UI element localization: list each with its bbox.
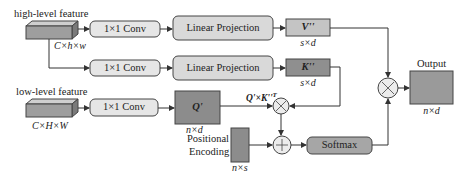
output-label: Output bbox=[410, 58, 453, 70]
softmax-label: Softmax bbox=[307, 139, 372, 151]
low-level-feature-cube bbox=[26, 99, 78, 117]
k-label: K'' bbox=[286, 61, 330, 73]
v-dims: s×d bbox=[286, 37, 330, 49]
conv-button-1: 1×1 Conv bbox=[90, 23, 160, 35]
conv-button-2: 1×1 Conv bbox=[90, 62, 160, 74]
high-level-dims: C×h×w bbox=[54, 40, 86, 52]
high-level-feature-label: high-level feature bbox=[14, 8, 88, 20]
positional-label: Positional bbox=[187, 133, 229, 145]
attention-diagram: high-level feature C×h×w low-level featu… bbox=[0, 0, 468, 176]
q-label: Q' bbox=[175, 101, 220, 113]
encoding-label: Encoding bbox=[189, 146, 229, 158]
pos-dims: n×s bbox=[232, 162, 248, 174]
low-level-dims: C×H×W bbox=[32, 120, 68, 132]
linear-projection-2: Linear Projection bbox=[173, 62, 273, 74]
k-dims: s×d bbox=[286, 77, 330, 89]
low-level-feature-label: low-level feature bbox=[16, 86, 87, 98]
linear-projection-1: Linear Projection bbox=[173, 22, 273, 34]
conv-button-3: 1×1 Conv bbox=[90, 101, 158, 113]
high-level-feature-cube bbox=[26, 21, 78, 39]
v-label: V'' bbox=[286, 21, 330, 33]
qk-label: Q'×K''T bbox=[246, 89, 277, 104]
output-dims: n×d bbox=[410, 105, 453, 117]
